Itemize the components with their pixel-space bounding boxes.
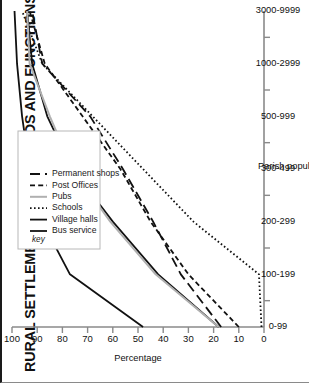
percentage-tick-label: 80 [57, 333, 68, 344]
band-tick-label: 500-999 [261, 111, 295, 121]
bands-axis-label: Parish population bands [258, 161, 309, 171]
rotated-plot-canvas: 1009080706050403020100 Percentage 0-9910… [2, 0, 309, 383]
band-tick-label: 3000-9999 [256, 5, 300, 15]
legend-label: Village halls [52, 214, 98, 224]
chart-legend: key Bus serviceVillage hallsSchoolsPubsP… [18, 131, 119, 249]
bands-axis: 0-99100-199200-299300-499500-9991000-299… [256, 0, 309, 331]
line-chart-svg: 1009080706050403020100 Percentage 0-9910… [2, 0, 309, 383]
percentage-tick-label: 40 [158, 333, 169, 344]
percentage-axis-label: Percentage [114, 353, 162, 363]
percentage-tick-label: 20 [208, 333, 219, 344]
band-tick-label: 1000-2999 [256, 58, 300, 68]
percentage-tick-label: 100 [4, 333, 20, 344]
legend-key-label: key [32, 235, 46, 244]
legend-label: Bus service [52, 225, 97, 235]
percentage-tick-label: 90 [32, 333, 43, 344]
percentage-tick-label: 50 [133, 333, 144, 344]
percentage-tick-label: 60 [108, 333, 119, 344]
legend-label: Schools [52, 202, 83, 212]
legend-label: Pubs [52, 191, 72, 201]
percentage-tick-label: 30 [183, 333, 194, 344]
band-tick-label: 100-199 [261, 269, 295, 279]
percentage-tick-label: 0 [261, 333, 266, 344]
percentage-tick-group: 1009080706050403020100 [4, 327, 267, 344]
percentage-tick-label: 70 [82, 333, 93, 344]
band-tick-label: 200-299 [261, 216, 295, 226]
percentage-axis: 1009080706050403020100 Percentage [4, 327, 267, 363]
plot-host: 1009080706050403020100 Percentage 0-9910… [2, 0, 309, 383]
legend-label: Permanent shops [52, 168, 119, 178]
percentage-tick-label: 10 [234, 333, 245, 344]
legend-label: Post Offices [52, 180, 98, 190]
band-tick-label: 0-99 [269, 321, 288, 331]
chart-figure: RURAL SETTLEMENT - THRESHOLDS AND FUNCTI… [0, 0, 309, 383]
